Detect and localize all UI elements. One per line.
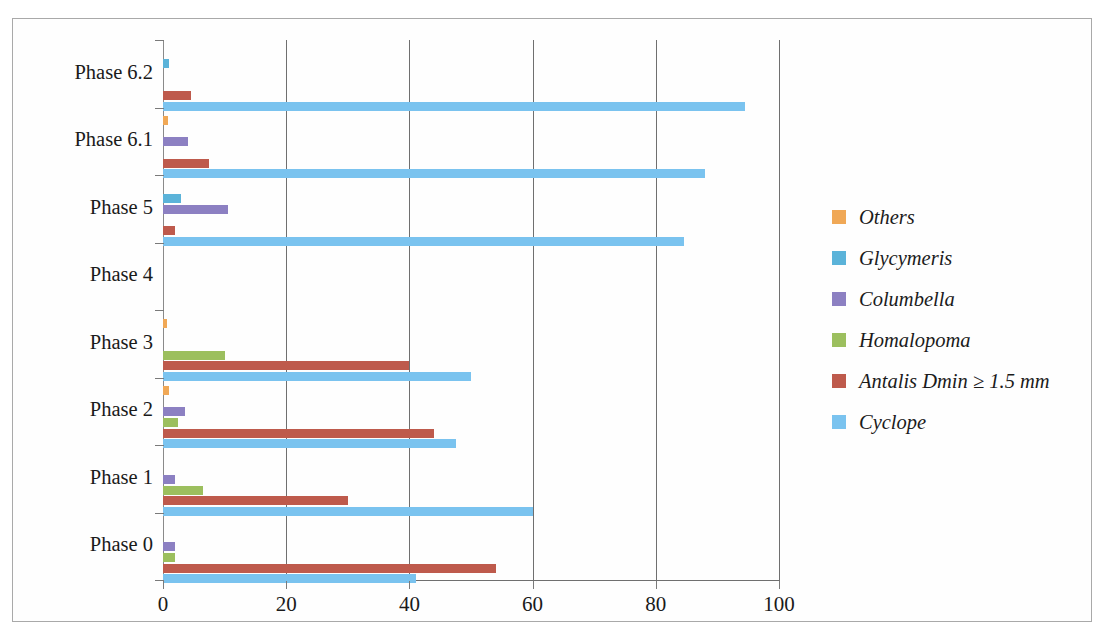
x-axis-label-40: 40 xyxy=(399,592,420,616)
bar-chart: Phase 6.2Phase 6.1Phase 5Phase 4Phase 3P… xyxy=(0,0,1106,632)
y-axis-label-phase-6.2: Phase 6.2 xyxy=(18,62,163,82)
legend-label: Cyclope xyxy=(859,411,926,433)
y-tick-2 xyxy=(155,175,164,176)
bar-phase-0-homalopoma xyxy=(163,553,175,562)
y-axis-label-phase-1: Phase 1 xyxy=(18,467,163,487)
bar-phase-1-antalis-dmin-1-5-mm xyxy=(163,496,348,505)
y-axis-label-phase-2: Phase 2 xyxy=(18,399,163,419)
bar-phase-0-antalis-dmin-1-5-mm xyxy=(163,564,496,573)
x-axis-label-60: 60 xyxy=(522,592,543,616)
x-axis-label-20: 20 xyxy=(276,592,297,616)
gridline-60 xyxy=(533,40,534,580)
bar-phase-6.1-cyclope xyxy=(163,169,705,178)
legend-label: Antalis Dmin ≥ 1.5 mm xyxy=(859,370,1050,392)
bar-phase-3-others xyxy=(163,319,167,328)
y-tick-0 xyxy=(155,40,164,41)
bar-phase-6.2-antalis-dmin-1-5-mm xyxy=(163,91,191,100)
bar-phase-3-homalopoma xyxy=(163,351,225,360)
x-tick-0 xyxy=(163,581,164,589)
y-tick-1 xyxy=(155,108,164,109)
y-tick-end xyxy=(155,580,164,581)
legend-item-cyclope[interactable]: Cyclope xyxy=(832,401,1082,442)
legend-swatch-icon xyxy=(832,292,846,306)
legend-item-antalis-dmin-1-5-mm[interactable]: Antalis Dmin ≥ 1.5 mm xyxy=(832,360,1082,401)
bar-phase-0-columbella xyxy=(163,542,175,551)
x-tick-60 xyxy=(533,581,534,589)
bar-phase-5-columbella xyxy=(163,205,228,214)
bar-phase-5-glycymeris xyxy=(163,194,181,203)
plot-area xyxy=(163,40,779,580)
bar-phase-2-antalis-dmin-1-5-mm xyxy=(163,429,434,438)
y-axis-label-phase-5: Phase 5 xyxy=(18,197,163,217)
gridline-40 xyxy=(409,40,410,580)
y-axis-label-phase-6.1: Phase 6.1 xyxy=(18,129,163,149)
y-tick-5 xyxy=(155,378,164,379)
y-axis-label-phase-0: Phase 0 xyxy=(18,534,163,554)
bar-phase-2-others xyxy=(163,386,169,395)
bar-phase-5-antalis-dmin-1-5-mm xyxy=(163,226,175,235)
bar-phase-2-homalopoma xyxy=(163,418,178,427)
legend-item-others[interactable]: Others xyxy=(832,196,1082,237)
bar-phase-6.2-cyclope xyxy=(163,102,745,111)
bar-phase-2-cyclope xyxy=(163,439,456,448)
bar-phase-3-cyclope xyxy=(163,372,471,381)
x-tick-20 xyxy=(286,581,287,589)
x-tick-100 xyxy=(779,581,780,589)
bar-phase-1-cyclope xyxy=(163,507,533,516)
bar-phase-6.1-antalis-dmin-1-5-mm xyxy=(163,159,209,168)
legend-swatch-icon xyxy=(832,333,846,347)
bar-phase-3-antalis-dmin-1-5-mm xyxy=(163,361,409,370)
legend-label: Columbella xyxy=(859,288,955,310)
bar-phase-6.1-others xyxy=(163,116,168,125)
x-axis-label-100: 100 xyxy=(763,592,795,616)
bar-phase-6.1-columbella xyxy=(163,137,188,146)
legend-item-homalopoma[interactable]: Homalopoma xyxy=(832,319,1082,360)
legend-label: Glycymeris xyxy=(859,247,952,269)
legend-label: Others xyxy=(859,206,915,228)
bar-phase-2-columbella xyxy=(163,407,185,416)
y-tick-6 xyxy=(155,445,164,446)
y-axis-label-phase-3: Phase 3 xyxy=(18,332,163,352)
bar-phase-1-homalopoma xyxy=(163,486,203,495)
x-axis-label-80: 80 xyxy=(645,592,666,616)
legend-swatch-icon xyxy=(832,210,846,224)
y-tick-4 xyxy=(155,310,164,311)
legend-swatch-icon xyxy=(832,415,846,429)
y-tick-7 xyxy=(155,513,164,514)
legend-swatch-icon xyxy=(832,251,846,265)
y-axis-label-phase-4: Phase 4 xyxy=(18,264,163,284)
x-tick-40 xyxy=(409,581,410,589)
bar-phase-1-columbella xyxy=(163,475,175,484)
bar-phase-5-cyclope xyxy=(163,237,684,246)
gridline-80 xyxy=(656,40,657,580)
y-axis-tick-labels: Phase 6.2Phase 6.1Phase 5Phase 4Phase 3P… xyxy=(0,0,163,632)
legend-item-columbella[interactable]: Columbella xyxy=(832,278,1082,319)
gridline-100 xyxy=(779,40,780,580)
x-tick-80 xyxy=(656,581,657,589)
x-axis-label-0: 0 xyxy=(158,592,169,616)
bar-phase-6.2-glycymeris xyxy=(163,59,169,68)
y-tick-3 xyxy=(155,243,164,244)
legend-item-glycymeris[interactable]: Glycymeris xyxy=(832,237,1082,278)
legend-label: Homalopoma xyxy=(859,329,971,351)
chart-legend: OthersGlycymerisColumbellaHomalopomaAnta… xyxy=(832,196,1082,442)
legend-swatch-icon xyxy=(832,374,846,388)
bar-phase-0-cyclope xyxy=(163,574,416,583)
